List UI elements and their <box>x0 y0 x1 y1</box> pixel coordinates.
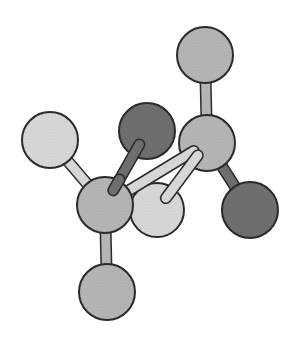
atom-upper-left <box>22 112 78 168</box>
atom-bottom <box>79 264 135 320</box>
atom-left-center <box>77 177 133 233</box>
molecule-svg <box>0 0 305 349</box>
atom-right-dark <box>222 182 278 238</box>
bond-stub-dark <box>113 179 119 190</box>
atom-upper-dark <box>119 103 175 159</box>
atom-top <box>177 27 233 83</box>
molecule-diagram <box>0 0 305 349</box>
